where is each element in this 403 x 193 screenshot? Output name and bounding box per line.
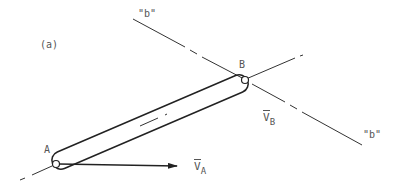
joint-a xyxy=(53,161,60,168)
velocity-a-arrow xyxy=(59,164,177,166)
velocity-a-subscript: A xyxy=(201,166,206,176)
panel-label: (a) xyxy=(40,40,58,50)
point-a-label: A xyxy=(44,145,50,155)
velocity-b-label: VB xyxy=(263,108,275,124)
center-line-ab xyxy=(20,55,303,180)
velocity-b-symbol: V xyxy=(263,111,270,124)
line-b-label-top: "b" xyxy=(138,9,156,19)
diagram-canvas: (a) "b" "b" B A VB VA xyxy=(0,0,403,193)
joint-b xyxy=(242,77,249,84)
velocity-a-symbol: V xyxy=(194,160,201,173)
point-b-label: B xyxy=(239,60,245,70)
velocity-a-label: VA xyxy=(194,157,206,173)
velocity-b-subscript: B xyxy=(270,117,275,127)
line-b-label-bottom: "b" xyxy=(363,130,381,140)
